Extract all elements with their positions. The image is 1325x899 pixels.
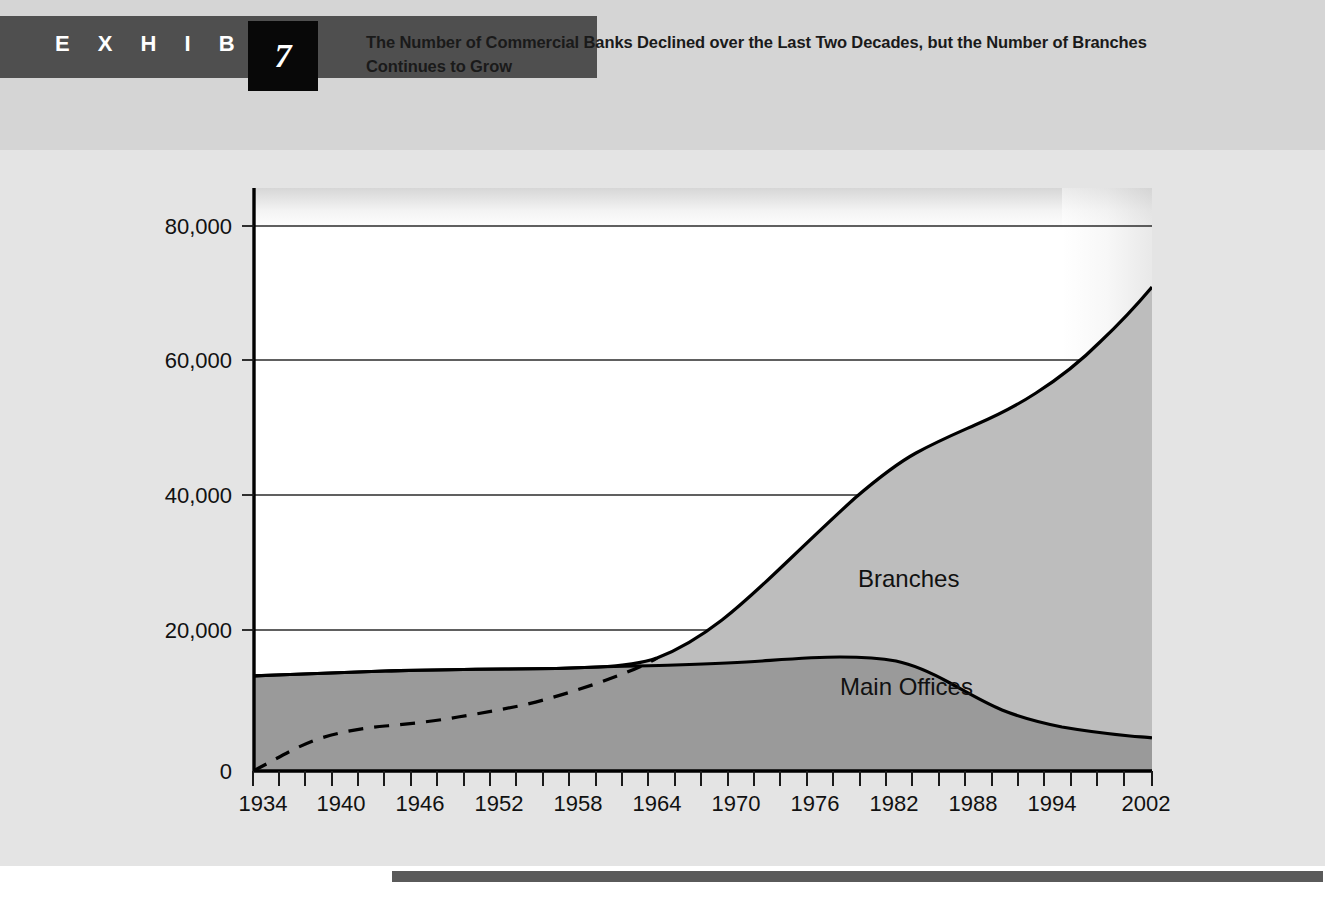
x-tick-label: 2002 [1122, 791, 1171, 816]
branches-label: Branches [858, 565, 959, 592]
x-tick-label: 1934 [239, 791, 288, 816]
x-tick-label: 1976 [791, 791, 840, 816]
x-tick-label: 1982 [870, 791, 919, 816]
exhibit-title: The Number of Commercial Banks Declined … [366, 31, 1226, 79]
y-tick-labels: 80,000 60,000 40,000 20,000 0 [165, 214, 232, 784]
y-tick-marks [242, 226, 254, 630]
chart-container: 80,000 60,000 40,000 20,000 0 [0, 150, 1325, 850]
x-tick-label: 1946 [396, 791, 445, 816]
area-chart: 80,000 60,000 40,000 20,000 0 [0, 150, 1325, 850]
exhibit-number: 7 [248, 21, 318, 91]
x-tick-label: 1952 [475, 791, 524, 816]
main-offices-label: Main Offices [840, 673, 973, 700]
x-tick-label: 1988 [949, 791, 998, 816]
x-tick-label: 1958 [554, 791, 603, 816]
y-tick-label: 80,000 [165, 214, 232, 239]
x-tick-label: 1994 [1028, 791, 1077, 816]
x-tick-label: 1970 [712, 791, 761, 816]
y-tick-label: 40,000 [165, 483, 232, 508]
y-tick-label: 0 [220, 759, 232, 784]
x-tick-labels: 1934 1940 1946 1952 1958 1964 1970 1976 … [239, 791, 1171, 816]
x-tick-label: 1964 [633, 791, 682, 816]
y-tick-label: 60,000 [165, 348, 232, 373]
x-tick-marks [253, 771, 1152, 786]
y-tick-label: 20,000 [165, 618, 232, 643]
x-tick-label: 1940 [317, 791, 366, 816]
footer-rule [392, 871, 1323, 882]
